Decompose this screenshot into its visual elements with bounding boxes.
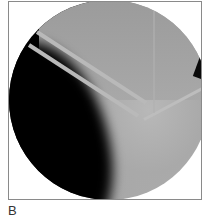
panel-label: B xyxy=(8,203,17,218)
fluoroscopy-image xyxy=(9,1,202,200)
faint-vertical-line xyxy=(153,3,155,113)
radiograph-frame xyxy=(8,1,202,200)
